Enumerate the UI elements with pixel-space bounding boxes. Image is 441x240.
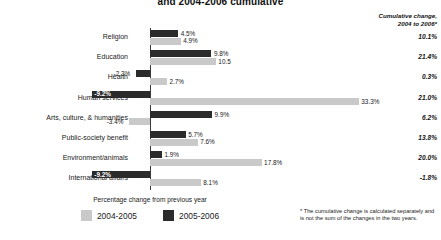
bar-2004-2005[interactable]: [150, 58, 216, 65]
category-label: Public-society benefit: [0, 134, 128, 142]
chart-row: Human services-9.2%33.3%21.0%: [0, 89, 441, 107]
cumulative-change-header: Cumulative change, 2004 to 2006*: [317, 12, 437, 27]
chart-row: Arts, culture, & humanities9.9%-3.4%6.2%: [0, 109, 441, 127]
cumulative-change-value: 21.0%: [319, 94, 437, 101]
legend-label-2005-2006: 2005-2006: [179, 211, 219, 221]
category-label: Health: [0, 73, 128, 81]
chart-row: Environment/animals1.9%17.8%20.0%: [0, 149, 441, 167]
cumulative-change-value: 21.4%: [319, 53, 437, 60]
bar-2005-2006[interactable]: [150, 131, 186, 138]
cumulative-change-header-line2: 2004 to 2006*: [317, 20, 437, 28]
cumulative-change-value: -1.8%: [319, 174, 437, 181]
bar-value-label: 5.7%: [188, 131, 203, 138]
chart-container: and 2004-2006 cumulative Cumulative chan…: [0, 0, 441, 240]
bar-2004-2005[interactable]: [150, 78, 167, 85]
category-label: Religion: [0, 33, 128, 41]
cumulative-change-value: 13.8%: [319, 134, 437, 141]
legend-label-2004-2005: 2004-2005: [97, 211, 137, 221]
bar-2005-2006[interactable]: [136, 70, 150, 77]
footnote-line3: changes in the two years.: [353, 215, 418, 221]
cumulative-change-value: 0.3%: [319, 73, 437, 80]
bar-value-label: 10.5: [218, 58, 230, 65]
legend-items: 2004-2005 2005-2006: [0, 210, 300, 221]
cumulative-change-header-line1: Cumulative change,: [317, 12, 437, 20]
legend-caption: Percentage change from previous year: [0, 196, 300, 203]
bar-2004-2005[interactable]: [150, 139, 198, 146]
bar-2004-2005[interactable]: [129, 118, 150, 125]
cumulative-change-value: 20.0%: [319, 154, 437, 161]
bar-2004-2005[interactable]: [150, 159, 262, 166]
bar-2005-2006[interactable]: [150, 111, 212, 118]
bar-value-label: -3.4%: [107, 118, 124, 125]
bar-value-label: 7.6%: [200, 138, 215, 145]
bar-value-label: 9.9%: [215, 111, 230, 118]
legend-item-2004-2005[interactable]: 2004-2005: [81, 210, 137, 221]
chart-row: Health-2.3%2.7%0.3%: [0, 68, 441, 86]
bar-value-label: 17.8%: [264, 159, 282, 166]
cumulative-change-value: 10.1%: [319, 33, 437, 40]
bar-2005-2006[interactable]: [150, 151, 162, 158]
bar-2004-2005[interactable]: [150, 179, 201, 186]
bar-2005-2006[interactable]: [150, 30, 178, 37]
category-label: Education: [0, 53, 128, 61]
bar-value-label: -9.2%: [94, 90, 111, 97]
bar-value-label: 9.8%: [214, 50, 229, 57]
chart-row: Religion4.5%4.9%10.1%: [0, 28, 441, 46]
chart-title: and 2004-2006 cumulative: [0, 0, 441, 7]
bar-2004-2005[interactable]: [150, 38, 181, 45]
bar-value-label: 4.5%: [181, 30, 196, 37]
bar-value-label: 8.1%: [203, 179, 218, 186]
bar-value-label: -9.2%: [94, 171, 111, 178]
bar-value-label: 2.7%: [169, 78, 184, 85]
bar-value-label: -2.3%: [114, 70, 131, 77]
category-label: Environment/animals: [0, 154, 128, 162]
bar-value-label: 4.9%: [183, 37, 198, 44]
legend-item-2005-2006[interactable]: 2005-2006: [163, 210, 219, 221]
cumulative-change-value: 6.2%: [319, 114, 437, 121]
footnote: * The cumulative change is calculated se…: [300, 208, 436, 222]
legend-swatch-icon-2005-2006: [163, 210, 174, 221]
chart-row: International affairs-9.2%8.1%-1.8%: [0, 169, 441, 187]
plot-area: Religion4.5%4.9%10.1%Education9.8%10.521…: [0, 28, 441, 190]
legend-swatch-icon-2004-2005: [81, 210, 92, 221]
chart-row: Public-society benefit5.7%7.6%13.8%: [0, 129, 441, 147]
bar-value-label: 1.9%: [164, 151, 179, 158]
bar-2005-2006[interactable]: [150, 50, 211, 57]
chart-row: Education9.8%10.521.4%: [0, 48, 441, 66]
footnote-line1: * The cumulative change is calculated: [300, 208, 395, 214]
